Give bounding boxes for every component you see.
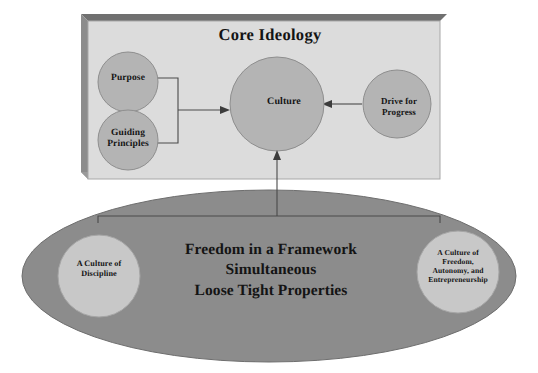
node-culture-of-discipline [58, 235, 140, 317]
node-culture-of-freedom [417, 231, 499, 313]
node-guiding-principles [98, 110, 158, 170]
core-ideology-box-shadow-top [81, 14, 447, 21]
core-ideology-box-shadow-left [81, 14, 88, 179]
concept-diagram: Core Ideology Purpose Guiding Principles… [0, 0, 538, 373]
node-purpose [98, 52, 158, 112]
node-drive-for-progress [363, 70, 431, 138]
node-culture [230, 57, 324, 151]
diagram-canvas [0, 0, 538, 373]
